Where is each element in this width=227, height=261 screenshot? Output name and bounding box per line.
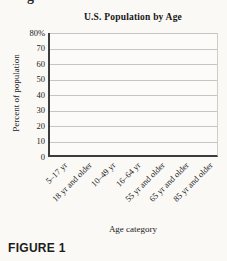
gridline [50, 33, 217, 34]
y-tick-label: 10 [0, 137, 45, 146]
gridline [50, 142, 217, 143]
y-tick-label: 50 [0, 75, 45, 84]
gridline [50, 126, 217, 127]
gridline [50, 49, 217, 50]
chart-title: U.S. Population by Age [48, 12, 218, 22]
gridline [50, 64, 217, 65]
x-category-label: 10–49 yr [89, 160, 118, 189]
y-tick-label: 60 [0, 60, 45, 69]
y-tick-label: 0 [0, 153, 45, 162]
plot-area [48, 33, 218, 157]
gridline [50, 95, 217, 96]
gridline [50, 111, 217, 112]
y-tick-label: 40 [0, 91, 45, 100]
y-tick-label: 20 [0, 122, 45, 131]
x-axis-title: Age category [48, 224, 218, 234]
y-tick-label: 30 [0, 106, 45, 115]
clipped-text-fragment: g [27, 0, 34, 5]
gridline [50, 80, 217, 81]
figure-container: g U.S. Population by Age Percent of popu… [0, 0, 227, 261]
y-tick-label: 70 [0, 44, 45, 53]
figure-caption-label: FIGURE 1 [8, 241, 66, 255]
y-tick-label: 80% [0, 29, 45, 38]
